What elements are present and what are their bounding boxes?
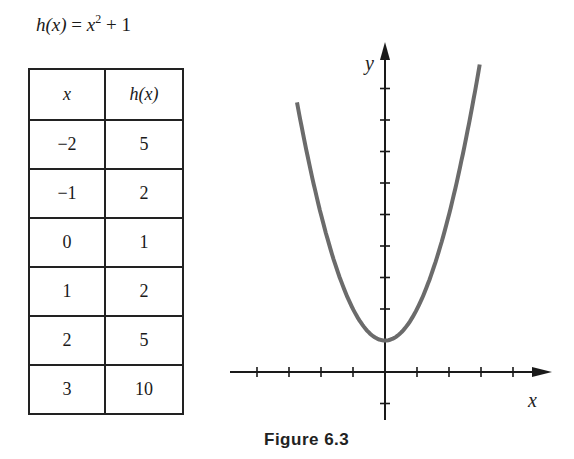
x-axis-label: x (527, 389, 537, 411)
figure-caption: Figure 6.3 (264, 430, 349, 450)
x-arrow-icon (532, 367, 552, 377)
y-axis-label: y (363, 52, 374, 75)
parabola-plot: y x (0, 0, 574, 459)
y-arrow-icon (380, 42, 390, 60)
axes (230, 42, 552, 420)
parabola-curve (297, 65, 480, 341)
